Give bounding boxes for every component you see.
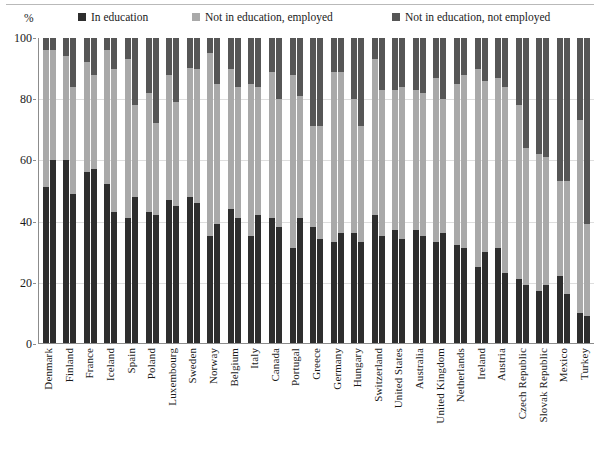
x-axis-group: Spain [120,346,141,450]
x-axis-group: Iceland [100,346,121,450]
legend-item-not-in-education-employed: Not in education, employed [192,11,333,23]
x-axis-tick-label: France [83,348,95,379]
bar-segment [482,81,488,252]
bar-segment [50,50,56,160]
x-axis-tick-label: Italy [248,348,260,369]
bar-group [574,38,595,343]
bar-group [286,38,307,343]
x-axis-tick-label: Netherlands [454,348,466,402]
bar-segment [440,233,446,343]
legend-label-not-in-education-not-employed: Not in education, not employed [405,11,550,23]
bar-segment [461,38,467,75]
bar-segment [433,38,439,78]
bar-segment [351,233,357,343]
bar-segment [433,78,439,243]
bar-segment [297,96,303,218]
bar-segment [276,99,282,227]
bar-segment [584,316,590,343]
bar-group [430,38,451,343]
bar-segment [43,38,49,50]
stacked-bar [379,38,385,343]
bar-segment [577,120,583,312]
y-axis-tick-label: 40 [20,214,32,229]
x-axis-group: Austria [491,346,512,450]
bar-segment [166,200,172,343]
x-axis-group: Norway [203,346,224,450]
stacked-bar [372,38,378,343]
bar-segment [290,75,296,249]
bar-segment [461,248,467,343]
bar-segment [153,215,159,343]
bar-segment [557,181,563,276]
bar-segment [248,84,254,237]
x-axis-group: United States [388,346,409,450]
header-rule [6,4,594,5]
bar-segment [454,245,460,343]
bar-segment [187,68,193,196]
stacked-bar [310,38,316,343]
bar-series-container [39,38,594,343]
x-axis-group: Mexico [553,346,574,450]
bar-segment [536,291,542,343]
bar-segment [173,102,179,206]
bar-segment [338,72,344,234]
bar-group [142,38,163,343]
x-axis-tick-label: Ireland [475,348,487,380]
stacked-bar [84,38,90,343]
stacked-bar [358,38,364,343]
bar-segment [70,194,76,343]
bar-segment [70,87,76,194]
x-axis-group: Denmark [38,346,59,450]
bar-segment [84,62,90,172]
bar-segment [297,218,303,343]
stacked-bar [543,38,549,343]
x-axis-group: Sweden [182,346,203,450]
stacked-bar [153,38,159,343]
y-axis-tick-mark [33,283,36,284]
stacked-bar [461,38,467,343]
bar-segment [577,38,583,120]
bar-segment [104,184,110,343]
legend-swatch-not-in-education-not-employed [392,13,400,21]
stacked-bar [440,38,446,343]
bar-segment [125,59,131,218]
x-axis-group: Greece [306,346,327,450]
bar-segment [516,38,522,105]
bar-group [306,38,327,343]
bar-segment [358,38,364,126]
bar-segment [228,209,234,343]
bar-segment [269,38,275,72]
stacked-bar [482,38,488,343]
bar-group [450,38,471,343]
bar-segment [207,236,213,343]
bar-segment [413,38,419,90]
x-axis-group: United Kingdom [429,346,450,450]
stacked-bar [91,38,97,343]
bar-segment [297,38,303,96]
stacked-bar [433,38,439,343]
bar-segment [235,218,241,343]
bar-segment [399,38,405,87]
stacked-bar [564,38,570,343]
x-axis-group: Czech Republic [512,346,533,450]
bar-segment [91,38,97,75]
bar-segment [392,38,398,90]
bar-segment [502,38,508,87]
bar-segment [207,38,213,53]
stacked-bar [495,38,501,343]
bar-segment [187,38,193,69]
x-axis-group: Finland [59,346,80,450]
bar-segment [379,90,385,236]
stacked-bar [351,38,357,343]
bar-segment [495,78,501,249]
x-axis-group: Australia [409,346,430,450]
bar-segment [399,239,405,343]
x-axis-tick-label: Portugal [289,348,301,386]
bar-segment [214,84,220,224]
x-axis-tick-label: Spain [125,348,137,374]
stacked-bar [146,38,152,343]
x-axis-group: Italy [244,346,265,450]
x-axis-group: Slovak Republic [532,346,553,450]
bar-segment [523,148,529,285]
bar-segment [43,50,49,187]
